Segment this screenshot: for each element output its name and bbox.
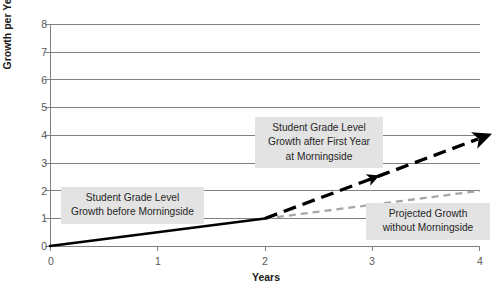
y-tick-label-1: 1 — [27, 213, 47, 224]
annotation-growth-after-first-year: Student Grade Level Growth after First Y… — [255, 117, 383, 168]
y-axis-title: Growth per Year — [2, 0, 13, 84]
x-tick-label-0: 0 — [39, 256, 63, 267]
annotation-growth-before-morningside: Student Grade Level Growth before Mornin… — [61, 187, 204, 224]
y-tick-label-7: 7 — [27, 47, 47, 58]
growth-per-year-chart: 8 7 6 5 4 3 2 1 0 0 1 2 3 4 Growth per Y… — [0, 0, 504, 294]
x-tick-label-4: 4 — [468, 256, 492, 267]
x-tick-label-3: 3 — [360, 256, 384, 267]
chart-plot-area — [0, 0, 504, 294]
x-tick-label-2: 2 — [253, 256, 277, 267]
y-tick-label-2: 2 — [27, 186, 47, 197]
y-tick-label-6: 6 — [27, 75, 47, 86]
y-tick-label-4: 4 — [27, 130, 47, 141]
y-tick-label-0: 0 — [27, 241, 47, 252]
y-tick-label-5: 5 — [27, 102, 47, 113]
y-tick-label-8: 8 — [27, 19, 47, 30]
x-axis-title: Years — [238, 272, 294, 283]
annotation-projected-growth: Projected Growth without Morningside — [366, 203, 490, 240]
y-tick-label-3: 3 — [27, 158, 47, 169]
x-tick-label-1: 1 — [146, 256, 170, 267]
